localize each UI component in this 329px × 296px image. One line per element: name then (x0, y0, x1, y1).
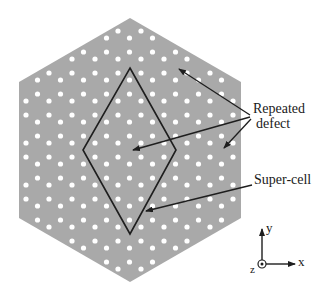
air-hole (127, 7, 132, 12)
air-hole (150, 259, 155, 264)
air-hole (196, 7, 201, 12)
air-hole (0, 28, 5, 33)
air-hole (127, 119, 132, 124)
air-hole (127, 77, 132, 82)
air-hole (138, 280, 143, 285)
air-hole (0, 112, 5, 117)
air-hole (150, 161, 155, 166)
air-hole (23, 238, 28, 243)
air-hole (35, 217, 40, 222)
repeated-defect-label-line1: Repeated (253, 101, 305, 116)
z-axis-dot (261, 263, 264, 266)
air-hole (161, 28, 166, 33)
air-hole (23, 28, 28, 33)
air-hole (242, 91, 247, 96)
air-hole (58, 35, 63, 40)
air-hole (219, 245, 224, 250)
air-hole (81, 91, 86, 96)
air-hole (35, 245, 40, 250)
air-hole (173, 7, 178, 12)
air-hole (12, 133, 17, 138)
air-hole (81, 245, 86, 250)
air-hole (150, 175, 155, 180)
air-hole (115, 140, 120, 145)
air-hole (0, 196, 5, 201)
air-hole (184, 238, 189, 243)
air-hole (46, 140, 51, 145)
air-hole (92, 266, 97, 271)
air-hole (12, 217, 17, 222)
air-hole (12, 119, 17, 124)
air-hole (115, 280, 120, 285)
air-hole (35, 259, 40, 264)
air-hole (219, 203, 224, 208)
air-hole (104, 91, 109, 96)
air-hole (0, 154, 5, 159)
air-hole (104, 77, 109, 82)
lattice-figure (0, 0, 329, 296)
air-hole (207, 28, 212, 33)
air-hole (104, 259, 109, 264)
air-hole (104, 133, 109, 138)
photonic-crystal-diagram: Repeated defect Super-cell y x z (0, 0, 329, 296)
air-hole (138, 238, 143, 243)
air-hole (230, 182, 235, 187)
air-hole (46, 280, 51, 285)
air-hole (219, 35, 224, 40)
air-hole (81, 7, 86, 12)
air-hole (138, 70, 143, 75)
air-hole (196, 91, 201, 96)
air-hole (242, 7, 247, 12)
air-hole (115, 196, 120, 201)
repeated-defect-label: Repeated defect (253, 101, 305, 131)
air-hole (12, 259, 17, 264)
air-hole (219, 259, 224, 264)
air-hole (92, 224, 97, 229)
air-hole (0, 266, 5, 271)
air-hole (150, 203, 155, 208)
air-hole (138, 14, 143, 19)
air-hole (161, 224, 166, 229)
air-hole (46, 98, 51, 103)
air-hole (23, 70, 28, 75)
air-hole (219, 161, 224, 166)
air-hole (35, 35, 40, 40)
air-hole (242, 133, 247, 138)
air-hole (35, 77, 40, 82)
air-hole (161, 14, 166, 19)
air-hole (46, 224, 51, 229)
air-hole (184, 98, 189, 103)
air-hole (104, 245, 109, 250)
air-hole (242, 259, 247, 264)
air-hole (115, 182, 120, 187)
air-hole (115, 154, 120, 159)
air-hole (104, 203, 109, 208)
air-hole (207, 56, 212, 61)
air-hole (127, 217, 132, 222)
air-hole (46, 182, 51, 187)
air-hole (196, 35, 201, 40)
air-hole (69, 14, 74, 19)
air-hole (0, 70, 5, 75)
air-hole (127, 49, 132, 54)
air-hole (81, 133, 86, 138)
air-hole (23, 266, 28, 271)
air-hole (150, 7, 155, 12)
air-hole (150, 49, 155, 54)
air-hole (196, 203, 201, 208)
air-hole (35, 91, 40, 96)
hexagonal-crystal-boundary (19, 18, 241, 282)
air-hole (92, 238, 97, 243)
air-hole (253, 56, 258, 61)
air-hole (184, 140, 189, 145)
air-hole (81, 175, 86, 180)
air-hole (58, 133, 63, 138)
air-hole (127, 133, 132, 138)
air-hole (23, 182, 28, 187)
air-hole (230, 196, 235, 201)
air-hole (230, 28, 235, 33)
air-hole (207, 14, 212, 19)
air-hole (230, 14, 235, 19)
air-hole (104, 175, 109, 180)
air-hole (127, 245, 132, 250)
